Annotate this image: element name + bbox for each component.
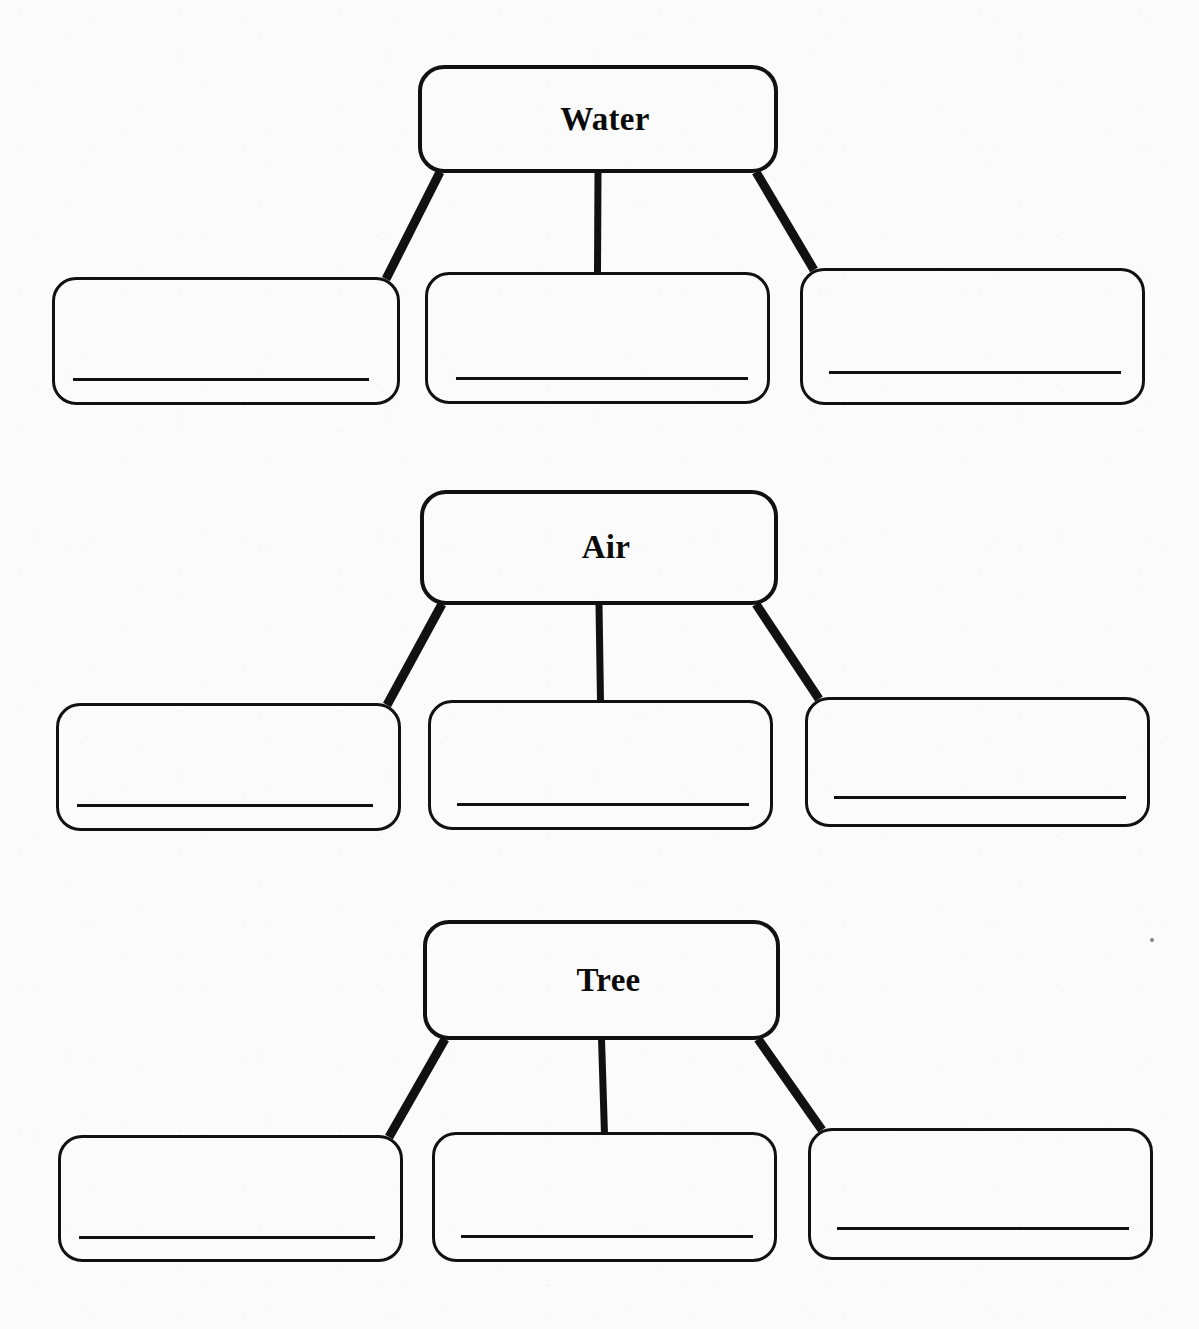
connector-left-tree: [389, 1039, 445, 1137]
connector-center-tree: [602, 1039, 605, 1134]
stray-scan-mark: [1150, 938, 1154, 942]
write-in-line-tree-child-2[interactable]: [461, 1235, 753, 1238]
write-in-line-tree-child-3[interactable]: [837, 1227, 1129, 1230]
write-in-line-tree-child-1[interactable]: [79, 1236, 375, 1239]
answer-box-tree-child-1[interactable]: [58, 1135, 403, 1262]
answer-box-tree-child-3[interactable]: [808, 1128, 1153, 1260]
concept-map-worksheet: WaterAirTree: [0, 0, 1199, 1329]
answer-box-tree-child-2[interactable]: [432, 1132, 777, 1262]
parent-label-tree: Tree: [576, 962, 640, 999]
parent-box-tree: Tree: [423, 920, 780, 1040]
connector-right-tree: [758, 1039, 822, 1130]
concept-group-tree: Tree: [0, 0, 1199, 1329]
